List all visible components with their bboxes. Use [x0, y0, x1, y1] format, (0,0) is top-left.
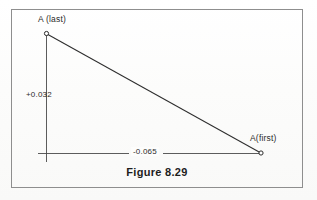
point-marker-a-last — [44, 31, 48, 35]
figure-caption: Figure 8.29 — [11, 166, 303, 178]
closure-line — [47, 34, 260, 153]
figure-page: A (last) A(first) +0.032 -0.065 Figure 8… — [0, 0, 317, 200]
dimension-label-vertical: +0.032 — [26, 90, 52, 99]
point-label-a-last: A (last) — [38, 14, 66, 24]
point-marker-a-first — [259, 151, 263, 155]
dimension-label-horizontal: -0.065 — [131, 147, 159, 156]
point-label-a-first: A(first) — [250, 133, 277, 143]
